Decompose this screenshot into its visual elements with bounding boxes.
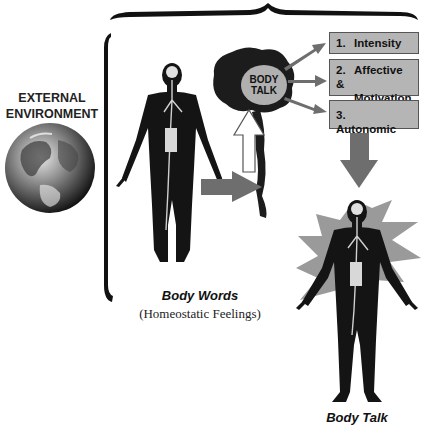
box-label: Intensity bbox=[354, 37, 401, 49]
body-talk-caption: Body Talk bbox=[312, 410, 402, 425]
box-intensity: 1.Intensity bbox=[329, 32, 419, 54]
input-arrow bbox=[201, 171, 262, 202]
brain-label-line1: BODY bbox=[244, 74, 284, 85]
env-label-line2: ENVIRONMENT bbox=[2, 106, 102, 122]
top-brace bbox=[110, 3, 418, 20]
box-number: 2. bbox=[336, 63, 354, 77]
homeostatic-feelings-caption: (Homeostatic Feelings) bbox=[120, 306, 280, 322]
earth-globe-icon bbox=[5, 123, 95, 213]
body-talk-brain-label: BODY TALK bbox=[244, 74, 284, 96]
down-arrow bbox=[340, 133, 378, 188]
env-label-line1: EXTERNAL bbox=[2, 90, 102, 106]
external-environment-label: EXTERNAL ENVIRONMENT bbox=[2, 90, 102, 122]
body-words-caption: Body Words bbox=[130, 288, 270, 303]
organ-highlight bbox=[165, 128, 177, 152]
box-autonomic: 3.Autonomic bbox=[329, 100, 419, 129]
box-number: 3. bbox=[336, 108, 354, 122]
box-number: 1. bbox=[336, 36, 354, 50]
box-label: Autonomic bbox=[336, 123, 396, 135]
brain-label-line2: TALK bbox=[244, 85, 284, 96]
box-affective-motivation: 2.Affective & Motivation bbox=[329, 59, 419, 96]
left-brace bbox=[104, 33, 113, 302]
